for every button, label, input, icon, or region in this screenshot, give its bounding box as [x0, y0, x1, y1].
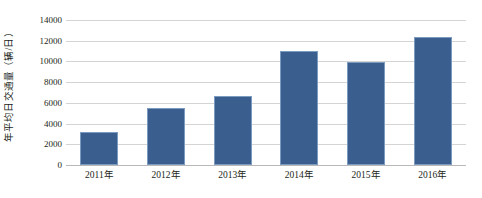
x-axis-tick-label: 2012年 — [152, 170, 181, 181]
x-axis-tick-labels: 2011年2012年2013年2014年2015年2016年 — [66, 170, 466, 188]
bar[interactable] — [280, 51, 318, 165]
bar[interactable] — [214, 96, 252, 165]
bars-layer — [66, 20, 466, 165]
y-axis-tick-label: 4000 — [44, 119, 62, 128]
bar-slot — [266, 20, 333, 165]
bar[interactable] — [80, 132, 118, 165]
x-axis-tick-label: 2013年 — [218, 170, 247, 181]
plot-area — [66, 20, 466, 165]
y-axis-tick-label: 12000 — [40, 36, 63, 45]
x-axis-tick-label: 2015年 — [352, 170, 381, 181]
y-axis-tick-label: 8000 — [44, 78, 62, 87]
y-axis-tick-label: 6000 — [44, 98, 62, 107]
bar-slot — [66, 20, 133, 165]
x-axis-tick-label: 2016年 — [418, 170, 447, 181]
bar[interactable] — [147, 108, 185, 165]
bar-chart: 年平均日交通量（辆/日） 020004000600080001000012000… — [0, 0, 482, 198]
y-axis-tick-label: 0 — [58, 161, 63, 170]
bar-slot — [133, 20, 200, 165]
y-axis-title: 年平均日交通量（辆/日） — [0, 0, 20, 170]
bar-slot — [199, 20, 266, 165]
bar-slot — [333, 20, 400, 165]
y-axis-tick-label: 2000 — [44, 140, 62, 149]
y-axis-title-label: 年平均日交通量（辆/日） — [5, 27, 15, 142]
y-axis-tick-label: 14000 — [40, 16, 63, 25]
x-axis-tick-label: 2011年 — [85, 170, 114, 181]
bar[interactable] — [347, 62, 385, 165]
y-axis-tick-labels: 02000400060008000100001200014000 — [20, 14, 66, 166]
x-axis-tick-label: 2014年 — [285, 170, 314, 181]
gridline — [66, 165, 466, 166]
bar-slot — [399, 20, 466, 165]
bar[interactable] — [414, 37, 452, 165]
y-axis-tick-label: 10000 — [40, 57, 63, 66]
